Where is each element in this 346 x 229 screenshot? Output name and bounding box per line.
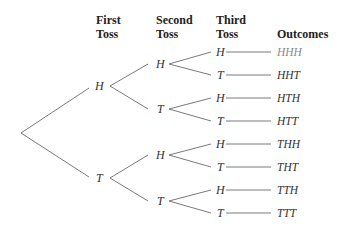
outcome-label: HTT [277, 115, 298, 127]
third-toss-node: T [217, 207, 224, 219]
third-toss-node: T [217, 161, 224, 173]
third-toss-node: H [216, 138, 225, 150]
third-toss-node: H [216, 46, 225, 58]
second-toss-node: H [156, 149, 165, 161]
first-toss-node: H [95, 80, 104, 92]
outcome-label: HHH [277, 46, 302, 58]
second-toss-node: T [157, 195, 164, 207]
outcome-label: HTH [277, 92, 300, 104]
outcome-label: TTT [277, 207, 296, 219]
outcome-label: THH [277, 138, 300, 150]
third-toss-node: H [216, 92, 225, 104]
outcome-label: THT [277, 161, 298, 173]
second-toss-node: H [156, 58, 165, 70]
outcome-label: HHT [277, 69, 300, 81]
first-toss-node: T [96, 172, 103, 184]
third-toss-node: T [217, 69, 224, 81]
second-toss-node: T [157, 103, 164, 115]
third-toss-node: H [216, 184, 225, 196]
third-toss-node: T [217, 115, 224, 127]
outcome-label: TTH [277, 184, 298, 196]
